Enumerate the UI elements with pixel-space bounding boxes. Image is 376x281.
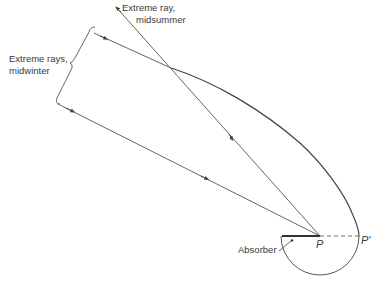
label-midsummer-1: Extreme ray, (122, 2, 175, 13)
midwinter-bracket (56, 27, 95, 104)
label-midsummer-2: midsummer (136, 14, 186, 25)
label-point-p-prime: P' (361, 235, 370, 246)
reflector-curve (171, 68, 359, 236)
midwinter-ray-lower (58, 104, 320, 236)
midwinter-ray-upper-arrow-icon (100, 36, 106, 39)
label-midwinter-2: midwinter (9, 65, 50, 76)
midwinter-ray-lower-arrow-icon (66, 108, 73, 112)
absorber-leader (279, 241, 291, 251)
midwinter-ray-lower-arrow2-icon (201, 176, 207, 179)
label-point-p: P (316, 239, 323, 250)
midsummer-ray (116, 7, 320, 236)
label-absorber: Absorber (238, 244, 277, 255)
diagram-canvas: Extreme ray, midsummer Extreme rays, mid… (0, 0, 376, 281)
midsummer-ray-start-arrow-icon (117, 8, 121, 12)
label-midwinter-1: Extreme rays, (9, 53, 68, 64)
absorber-leader-dot-icon (291, 239, 293, 241)
